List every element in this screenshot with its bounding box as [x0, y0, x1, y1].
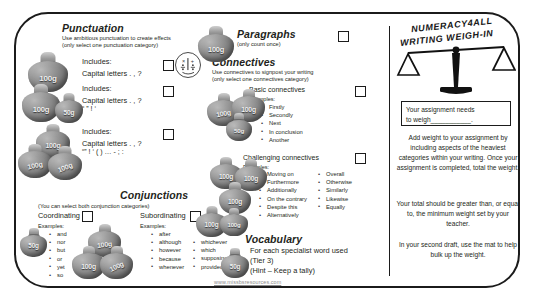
paragraphs-sub: (only count once) [237, 41, 281, 48]
list-item: because [150, 255, 184, 263]
coordinating-label: Coordinating [38, 211, 80, 220]
subordinating-examples-label: Examples: [140, 223, 166, 229]
list-item: Alternatively [258, 211, 307, 219]
punctuation-row-3-checkbox[interactable] [163, 129, 174, 140]
paragraphs-heading: Paragraphs [237, 28, 296, 40]
instructions-paragraph-1: Add weight to your assignment by includi… [396, 133, 520, 173]
basic-connectives-checkbox[interactable] [355, 86, 366, 97]
instructions-paragraph-2: Your total should be greater than, or eq… [396, 199, 520, 229]
punctuation-heading: Punctuation [62, 22, 124, 34]
footer-url[interactable]: www.missbsresources.com [214, 279, 281, 285]
assignment-weight-line-1: Your assignment needs [406, 105, 506, 115]
list-item: so [48, 271, 67, 279]
panel-divider [389, 26, 390, 276]
conjunctions-sub: (You can select both conjunction categor… [38, 203, 149, 210]
money-bag-50g: 50g [226, 113, 252, 141]
list-item: Equally [317, 203, 352, 211]
assignment-weight-line-2: to weigh___________. [406, 115, 506, 125]
connectives-sub-2: (only select one connectives category) [212, 76, 372, 83]
list-item: Next [260, 119, 303, 127]
list-item: Firstly [260, 103, 303, 111]
list-item: although [150, 238, 184, 246]
assignment-weight-box[interactable]: Your assignment needs to weigh__________… [401, 101, 511, 126]
list-item: Similarly [317, 186, 352, 194]
money-bag-100g: 100g [48, 146, 82, 180]
list-item: after [150, 230, 184, 238]
instructions-paragraph-3: In your second draft, use the mat to hel… [396, 240, 520, 260]
punctuation-row-3-detail: Capital letters . , ? [82, 139, 142, 148]
punctuation-row-1-includes: Includes: [82, 57, 112, 66]
money-bag-50g: 50g [55, 93, 83, 123]
money-bag-50g: 50g [221, 248, 249, 278]
list-item: whenever [150, 263, 184, 271]
vocabulary-line-3: (Hint – Keep a tally) [250, 266, 315, 275]
svg-text:×: × [182, 58, 185, 64]
coordinating-checkbox[interactable] [82, 211, 93, 222]
list-item: Secondly [260, 111, 303, 119]
paragraphs-checkbox[interactable] [338, 31, 349, 42]
subordinating-list-col1: after although however because whenever [150, 230, 184, 271]
list-item: whichever [192, 238, 227, 246]
vocabulary-line-2: (Tier 3) [250, 256, 274, 265]
punctuation-row-2-checkbox[interactable] [163, 86, 174, 97]
vocabulary-line-1: For each specialist word used [250, 246, 348, 255]
money-bag-100g: 100g [18, 144, 52, 178]
bag-weight-label: 50g [221, 263, 249, 270]
conjunctions-heading: Conjunctions [120, 189, 188, 201]
punctuation-row-2-detail: Capital letters . , ? [82, 96, 142, 105]
money-bag-100g: 100g [220, 208, 248, 236]
punctuation-sub-2: (only select one punctuation category) [62, 42, 212, 49]
svg-text:+: + [191, 58, 194, 64]
balance-scales-icon [396, 43, 516, 97]
punctuation-row-1-checkbox[interactable] [163, 60, 174, 71]
list-item: Otherwise [317, 178, 352, 186]
punctuation-row-2-includes: Includes: [82, 84, 112, 93]
bag-weight-label: 100g [28, 74, 68, 83]
punctuation-row-3-includes: Includes: [82, 127, 112, 136]
punctuation-row-3-detail-2: “” ! ‘ ( ) … - ; : [82, 148, 124, 155]
punctuation-row-1-detail: Capital letters . , ? [82, 69, 142, 78]
money-bag-50g: 50g [20, 228, 47, 257]
writing-weigh-in-mat: Punctuation Use ambitious punctuation to… [0, 0, 536, 305]
challenging-connectives-list-col2: Overall Otherwise Similarly Likewise Equ… [317, 170, 352, 211]
bag-weight-label: 50g [20, 242, 47, 249]
vocabulary-heading: Vocabulary [245, 233, 302, 245]
coordinating-list: and nor but or yet so [48, 230, 67, 279]
list-item: Another [260, 136, 303, 144]
basic-connectives-list: Firstly Secondly Next In conclusion Anot… [260, 103, 303, 144]
bag-weight-label: 100g [198, 45, 234, 54]
list-item: In conclusion [260, 128, 303, 136]
subordinating-label: Subordinating [140, 211, 186, 220]
money-bag-100g: 100g [198, 26, 234, 62]
list-item: Likewise [317, 195, 352, 203]
list-item: On the contrary [258, 195, 307, 203]
challenging-connectives-checkbox[interactable] [355, 153, 366, 164]
punctuation-row-2-detail-2: “ ” ! ‘ [82, 105, 96, 112]
money-bag-100g: 100g [100, 246, 133, 279]
list-item: Overall [317, 170, 352, 178]
list-item: however [150, 246, 184, 254]
list-item: Despite this [258, 203, 307, 211]
